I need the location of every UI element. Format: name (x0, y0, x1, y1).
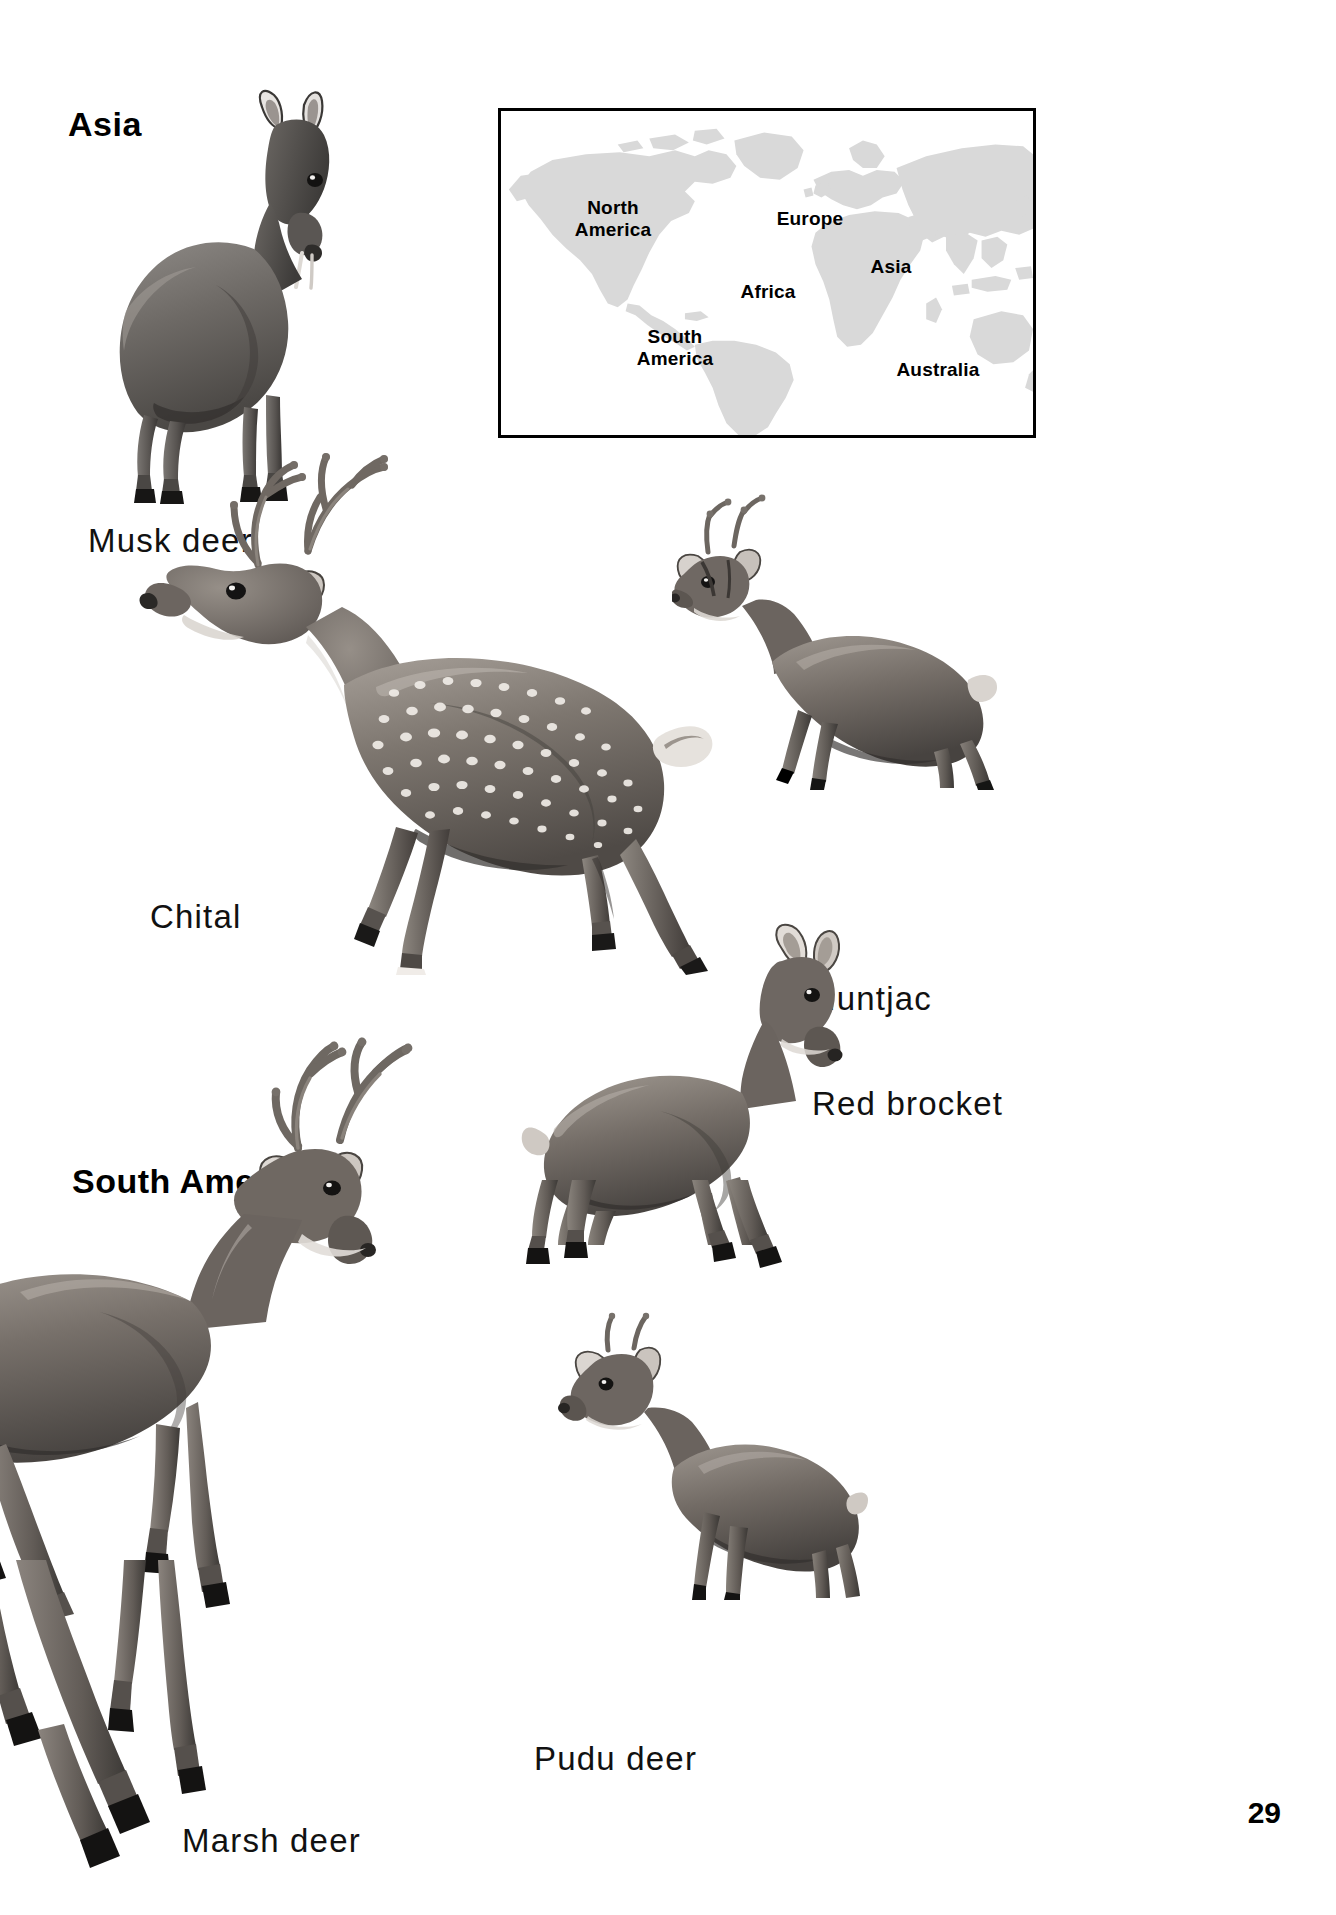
illustration-marsh-deer (0, 1000, 460, 1620)
map-label-north-america: North America (553, 197, 673, 241)
book-page: Asia (0, 0, 1336, 1915)
illustration-red-brocket-legs (520, 1180, 850, 1290)
map-label-south-america: South America (615, 326, 735, 370)
illustration-pudu-deer (548, 1300, 868, 1600)
species-label-marsh-deer: Marsh deer (182, 1822, 361, 1860)
page-number: 29 (1248, 1796, 1281, 1830)
map-label-europe: Europe (755, 208, 865, 230)
map-label-asia: Asia (851, 256, 931, 278)
species-label-pudu-deer: Pudu deer (534, 1740, 697, 1778)
species-label-chital: Chital (150, 898, 242, 936)
map-label-australia: Australia (873, 359, 1003, 381)
species-label-red-brocket: Red brocket (812, 1085, 1003, 1123)
illustration-muntjac (672, 490, 1002, 790)
world-map-graphic (501, 111, 1033, 435)
map-label-africa: Africa (723, 281, 813, 303)
world-map-inset: North America Europe Asia Africa South A… (498, 108, 1036, 438)
